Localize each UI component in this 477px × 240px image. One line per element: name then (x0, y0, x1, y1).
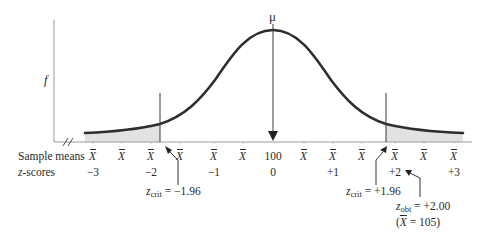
x-obt-value: = 105) (407, 216, 440, 228)
z-crit-right-arrow (376, 146, 387, 185)
x-obt-var: X (400, 216, 407, 228)
z-obt-sub: obt (400, 204, 411, 214)
sample-mean-2: X (118, 151, 125, 163)
z-scores-label: z-scores (18, 167, 55, 179)
sample-mean-10: X (358, 151, 365, 163)
z-obt-annotation: zobt = +2.00 (396, 201, 450, 214)
z-crit-left-annotation: zcrit = −1.96 (146, 186, 201, 199)
z-score-minus-2: −2 (145, 167, 157, 179)
mean-arrow-icon (268, 131, 278, 141)
sample-mean-9: X (329, 151, 336, 163)
z-scores-label-suffix: -scores (22, 166, 55, 178)
z-crit-left-sub: crit (150, 189, 161, 199)
z-obt-arrow (405, 170, 420, 197)
sample-mean-1: X (89, 151, 96, 163)
x-obt-annotation: (X = 105) (396, 217, 440, 229)
rejection-region-diagram: μ f Sample means z-scores X X X X X X 10… (0, 0, 477, 240)
mu-label: μ (269, 10, 276, 23)
sample-mean-13: X (450, 151, 457, 163)
z-score-plus-3: +3 (448, 167, 460, 179)
sample-mean-11: X (391, 151, 398, 163)
sample-mean-3: X (147, 151, 154, 163)
sample-mean-4: X (176, 151, 183, 163)
z-score-minus-1: −1 (208, 167, 220, 179)
z-score-plus-2: +2 (389, 167, 401, 179)
z-crit-left-value: = −1.96 (165, 185, 201, 197)
z-obt-value: = +2.00 (414, 200, 450, 212)
z-crit-right-annotation: zcrit = +1.96 (346, 186, 401, 199)
z-crit-right-sub: crit (350, 189, 361, 199)
z-score-plus-1: +1 (327, 167, 339, 179)
sample-mean-8: X (300, 151, 307, 163)
z-crit-right-value: = +1.96 (365, 185, 401, 197)
sample-mean-population-value: 100 (264, 151, 281, 163)
sample-mean-6: X (239, 151, 246, 163)
y-axis-label: f (44, 74, 47, 87)
normal-distribution-curve (85, 30, 463, 133)
z-score-0: 0 (270, 167, 276, 179)
sample-means-label: Sample means (18, 151, 85, 163)
sample-mean-12: X (420, 151, 427, 163)
sample-mean-5: X (210, 151, 217, 163)
z-score-minus-3: −3 (87, 167, 99, 179)
